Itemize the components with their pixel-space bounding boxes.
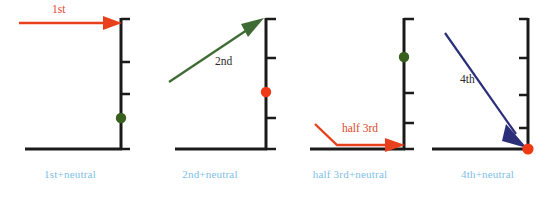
second-harmonic-arrowhead — [241, 18, 264, 37]
panel-1-caption: 1st+neutral — [0, 168, 140, 180]
panel-4th-neutral: 4th 4th+neutral — [420, 0, 555, 200]
arrow-label-2nd: 2nd — [215, 55, 232, 67]
first-harmonic-arrowhead — [103, 16, 122, 30]
fourth-harmonic-arrow-shaft — [445, 33, 516, 134]
panel-half-3rd-neutral: half 3rd half 3rd+neutral — [280, 0, 420, 200]
panel-1st-neutral: 1st 1st+neutral — [0, 0, 140, 200]
red-node-dot — [522, 143, 533, 154]
red-node-dot — [261, 87, 271, 97]
arrow-label-half-3rd: half 3rd — [342, 122, 378, 134]
panel-2-caption: 2nd+neutral — [140, 168, 280, 180]
green-node-dot — [116, 113, 126, 123]
harmonics-diagram: 1st 1st+neutral 2nd 2nd+neutral — [0, 0, 555, 200]
second-harmonic-arrow-shaft — [169, 28, 250, 82]
green-node-dot — [399, 52, 409, 62]
arrow-label-1st: 1st — [52, 3, 65, 15]
panel-4-caption: 4th+neutral — [420, 168, 555, 180]
panel-2nd-neutral: 2nd 2nd+neutral — [140, 0, 280, 200]
arrow-label-4th: 4th — [460, 73, 475, 85]
panel-3-caption: half 3rd+neutral — [280, 168, 420, 180]
